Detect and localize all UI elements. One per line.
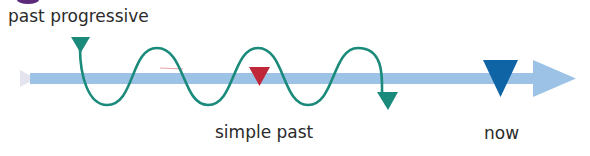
past-progressive-label: past progressive	[8, 8, 149, 25]
past-progressive-start-icon	[71, 37, 90, 53]
accent-blob	[17, 0, 39, 4]
past-progressive-end-arrow-icon	[377, 92, 398, 110]
simple-past-label: simple past	[215, 124, 313, 141]
now-label: now	[484, 125, 519, 142]
timeline-arrowhead-icon	[533, 60, 576, 97]
